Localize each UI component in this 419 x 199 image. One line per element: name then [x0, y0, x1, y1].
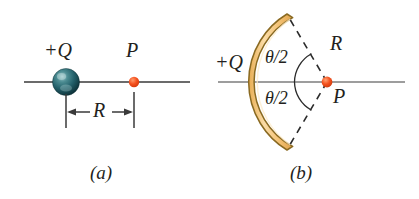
- point-label-b: P: [333, 86, 345, 106]
- figure-vector-layer: [0, 0, 419, 199]
- charge-label-b: +Q: [215, 52, 243, 72]
- panel-a-graphics: [24, 69, 190, 129]
- panel-caption-a: (a): [90, 163, 112, 182]
- field-point-dot-b: [322, 77, 333, 88]
- field-point-dot-a: [129, 77, 139, 87]
- panel-caption-b: (b): [290, 163, 312, 182]
- angle-label-top: θ/2: [265, 48, 288, 66]
- angle-label-bottom: θ/2: [265, 89, 288, 107]
- physics-figure: +Q P R (a) +Q θ/2 θ/2 R P (b): [0, 0, 419, 199]
- sphere-charge: [53, 69, 80, 96]
- point-label-a: P: [126, 40, 138, 60]
- panel-b-graphics: [218, 14, 405, 150]
- charge-label-a: +Q: [44, 40, 72, 60]
- radius-label-b: R: [330, 33, 342, 53]
- distance-label-a: R: [93, 100, 105, 120]
